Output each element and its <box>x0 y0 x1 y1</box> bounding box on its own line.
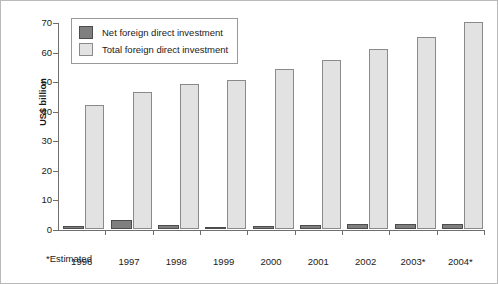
y-tick-mark <box>53 230 58 231</box>
bar-total <box>275 69 294 229</box>
bar-net <box>205 227 226 229</box>
y-tick-mark <box>53 23 58 24</box>
y-tick-mark <box>53 171 58 172</box>
y-axis-tick-labels: 010203040506070 <box>6 23 52 230</box>
bar-total <box>180 84 199 229</box>
x-axis-line <box>58 230 484 231</box>
bar-total <box>322 60 341 229</box>
bar-group <box>347 22 388 229</box>
y-axis-line <box>58 23 59 231</box>
y-tick-label: 10 <box>12 195 52 205</box>
x-tick-mark <box>389 230 390 235</box>
bar-net <box>395 224 416 229</box>
bar-net <box>347 224 368 229</box>
x-tick-mark <box>484 230 485 235</box>
y-tick-label: 50 <box>12 77 52 87</box>
y-tick-mark <box>53 53 58 54</box>
y-tick-label: 30 <box>12 136 52 146</box>
bar-net <box>253 226 274 229</box>
x-tick-mark <box>437 230 438 235</box>
chart-figure: US$ billion 010203040506070 199619971998… <box>0 0 498 284</box>
x-tick-mark <box>153 230 154 235</box>
chart-footnote: *Estimated <box>46 253 92 264</box>
y-tick-label: 60 <box>12 48 52 58</box>
bar-total <box>227 80 246 229</box>
y-tick-mark <box>53 112 58 113</box>
bar-total <box>464 22 483 229</box>
bar-total <box>133 92 152 230</box>
total-swatch-icon <box>79 43 93 56</box>
chart-legend: Net foreign direct investment Total fore… <box>71 18 238 64</box>
bar-group <box>395 22 436 229</box>
legend-label-total: Total foreign direct investment <box>102 44 228 55</box>
y-tick-mark <box>53 141 58 142</box>
bar-net <box>63 226 84 229</box>
y-tick-label: 0 <box>12 225 52 235</box>
y-tick-label: 20 <box>12 166 52 176</box>
bar-net <box>442 224 463 229</box>
y-tick-mark <box>53 200 58 201</box>
x-tick-mark <box>342 230 343 235</box>
legend-item-total: Total foreign direct investment <box>79 41 228 58</box>
y-tick-mark <box>53 82 58 83</box>
legend-label-net: Net foreign direct investment <box>102 27 223 38</box>
bar-net <box>300 225 321 229</box>
x-tick-mark <box>247 230 248 235</box>
x-tick-label: 2004* <box>430 257 490 267</box>
x-tick-mark <box>295 230 296 235</box>
x-tick-mark <box>105 230 106 235</box>
y-tick-label: 40 <box>12 107 52 117</box>
legend-item-net: Net foreign direct investment <box>79 24 228 41</box>
bar-total <box>417 37 436 229</box>
x-tick-mark <box>200 230 201 235</box>
bar-group <box>442 22 483 229</box>
bar-total <box>369 49 388 229</box>
y-tick-label: 70 <box>12 18 52 28</box>
net-swatch-icon <box>79 26 93 39</box>
bar-net <box>111 220 132 229</box>
bar-group <box>300 22 341 229</box>
bar-total <box>85 105 104 229</box>
bar-group <box>253 22 294 229</box>
bar-net <box>158 225 179 229</box>
